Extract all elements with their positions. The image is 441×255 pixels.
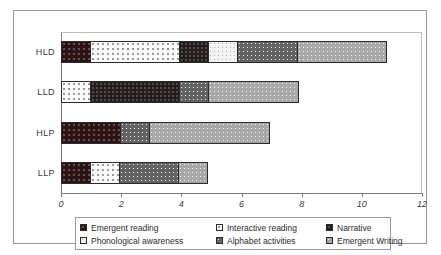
legend-swatch-icon bbox=[216, 237, 223, 244]
legend-item: Interactive reading bbox=[216, 223, 326, 233]
bar-segment bbox=[149, 122, 269, 144]
bar-segment bbox=[61, 81, 91, 103]
bar-segment bbox=[90, 41, 180, 63]
bar-segment bbox=[120, 122, 150, 144]
x-axis-tick bbox=[362, 193, 363, 197]
legend-label: Emergent Writing bbox=[337, 236, 403, 246]
bar-segment bbox=[178, 162, 208, 184]
stacked-bar bbox=[61, 81, 302, 103]
bar-segment bbox=[208, 41, 238, 63]
y-axis-label: LLD bbox=[37, 87, 55, 97]
x-axis-tick bbox=[302, 193, 303, 197]
stacked-bar bbox=[61, 162, 211, 184]
x-axis-tick-label: 2 bbox=[119, 199, 124, 209]
stacked-bar bbox=[61, 122, 272, 144]
x-axis-tick-label: 6 bbox=[239, 199, 244, 209]
x-axis-tick-label: 0 bbox=[58, 199, 63, 209]
bar-segment bbox=[179, 41, 209, 63]
legend-item: Emergent reading bbox=[80, 223, 216, 233]
bar-segment bbox=[90, 162, 120, 184]
plot-area: HLDLLDHLPLLP bbox=[61, 32, 422, 193]
legend-label: Emergent reading bbox=[91, 223, 159, 233]
x-axis-tick bbox=[422, 193, 423, 197]
chart-legend: Emergent readingInteractive readingNarra… bbox=[75, 217, 391, 250]
legend-swatch-icon bbox=[216, 224, 223, 231]
legend-swatch-icon bbox=[80, 224, 87, 231]
legend-item: Alphabet activities bbox=[216, 236, 326, 246]
x-axis-tick bbox=[121, 193, 122, 197]
y-axis-label: LLP bbox=[38, 168, 55, 178]
legend-swatch-icon bbox=[80, 237, 87, 244]
bar-segment bbox=[179, 81, 209, 103]
legend-item: Emergent Writing bbox=[326, 236, 403, 246]
stacked-bar bbox=[61, 41, 392, 63]
x-axis: 024681012 bbox=[61, 193, 422, 215]
bar-row: HLP bbox=[61, 113, 422, 153]
x-axis-tick-label: 10 bbox=[357, 199, 367, 209]
bar-segment bbox=[61, 162, 91, 184]
legend-label: Interactive reading bbox=[227, 223, 297, 233]
bar-segment bbox=[237, 41, 297, 63]
legend-label: Phonological awareness bbox=[91, 236, 183, 246]
bar-segment bbox=[119, 162, 179, 184]
x-axis-tick-label: 4 bbox=[179, 199, 184, 209]
x-axis-tick-label: 12 bbox=[417, 199, 427, 209]
legend-item: Narrative bbox=[326, 223, 403, 233]
bar-segment bbox=[90, 81, 180, 103]
x-axis-tick bbox=[181, 193, 182, 197]
x-axis-tick bbox=[61, 193, 62, 197]
bar-segment bbox=[61, 41, 91, 63]
bar-row: LLP bbox=[61, 153, 422, 193]
legend-swatch-icon bbox=[326, 237, 333, 244]
y-axis-label: HLP bbox=[36, 128, 55, 138]
legend-item: Phonological awareness bbox=[80, 236, 216, 246]
bar-segment bbox=[208, 81, 298, 103]
chart-frame: HLDLLDHLPLLP 024681012 Emergent readingI… bbox=[13, 10, 427, 244]
legend-swatch-icon bbox=[326, 224, 333, 231]
y-axis-label: HLD bbox=[36, 47, 55, 57]
legend-label: Narrative bbox=[337, 223, 371, 233]
bar-segment bbox=[61, 122, 121, 144]
bar-row: HLD bbox=[61, 32, 422, 72]
x-axis-tick-label: 8 bbox=[299, 199, 304, 209]
legend-label: Alphabet activities bbox=[227, 236, 296, 246]
x-axis-tick bbox=[242, 193, 243, 197]
bar-segment bbox=[297, 41, 387, 63]
bar-row: LLD bbox=[61, 72, 422, 112]
